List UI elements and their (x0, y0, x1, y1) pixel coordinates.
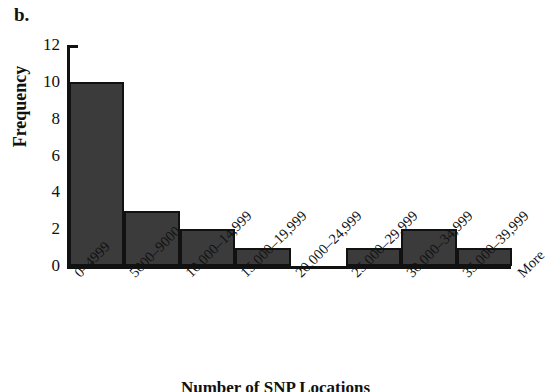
y-tick-label: 8 (30, 110, 60, 127)
y-tick-label: 4 (30, 183, 60, 200)
histogram-figure: b. Frequency 121086420 0–49995000–900010… (0, 0, 551, 392)
y-axis-tick-labels: 121086420 (28, 45, 60, 269)
x-tick-label: More (514, 247, 548, 281)
panel-letter: b. (14, 4, 29, 26)
y-tick-label: 12 (30, 36, 60, 53)
y-tick-label: 2 (30, 220, 60, 237)
x-axis-tick-labels: 0–49995000–900010,000–14,99915,000–19,99… (0, 269, 551, 364)
y-tick-label: 6 (30, 147, 60, 164)
figure-caption: Number of SNP Locations (0, 378, 551, 392)
bar (69, 82, 124, 266)
y-tick-label: 10 (30, 73, 60, 90)
